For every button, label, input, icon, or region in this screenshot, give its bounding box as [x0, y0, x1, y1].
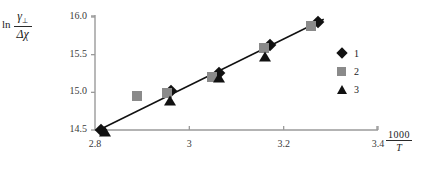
x-axis-tick-label: 2.8 — [75, 138, 115, 149]
x-axis-tick-label: 3.4 — [358, 138, 398, 149]
x-axis-tick-label: 3 — [169, 138, 209, 149]
legend-item[interactable]: 2 — [336, 62, 359, 80]
legend: 1 2 3 — [336, 44, 359, 98]
data-point-triangle — [213, 73, 225, 83]
data-point-square — [132, 91, 142, 101]
diamond-marker-icon — [336, 49, 347, 57]
data-point-triangle — [259, 51, 271, 61]
legend-item-label: 2 — [354, 66, 359, 77]
y-axis-tick-label: 16.0 — [55, 10, 87, 21]
chart-container: lnγ⊥Δχ 1000 T 14.515.015.516.0 2.833.23.… — [0, 0, 427, 171]
legend-item[interactable]: 3 — [336, 80, 359, 98]
data-point-triangle — [164, 95, 176, 105]
square-marker-icon — [336, 67, 347, 76]
y-axis-tick-label: 15.0 — [55, 85, 87, 96]
y-axis-tick-label: 14.5 — [55, 123, 87, 134]
y-axis-tick-label: 15.5 — [55, 48, 87, 59]
data-point-square — [306, 21, 316, 31]
legend-item-label: 1 — [354, 48, 359, 59]
x-axis-tick-label: 3.2 — [264, 138, 304, 149]
data-point-triangle — [99, 126, 111, 136]
legend-item-label: 3 — [354, 84, 359, 95]
triangle-marker-icon — [336, 85, 347, 94]
legend-item[interactable]: 1 — [336, 44, 359, 62]
